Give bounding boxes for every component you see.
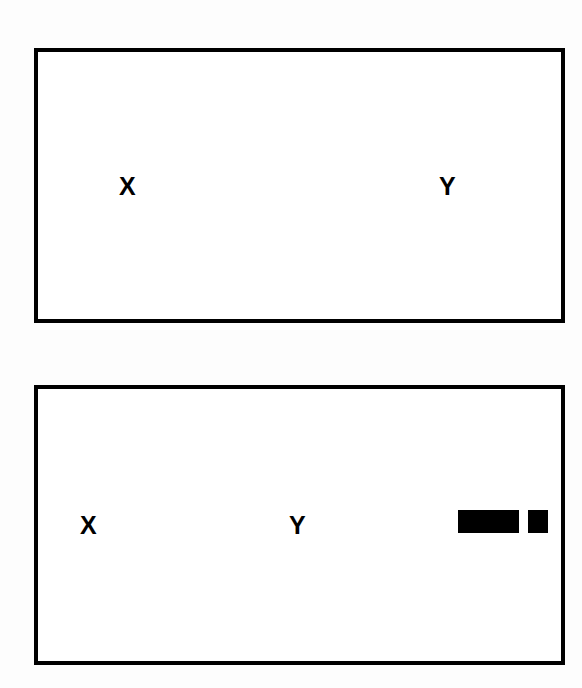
black-bar-long-icon — [458, 510, 519, 533]
label-x: X — [119, 174, 136, 199]
label-x: X — [80, 513, 97, 538]
diagram-panel-top: X Y — [34, 48, 565, 323]
diagram-panel-bottom: X Y — [34, 385, 565, 665]
label-y: Y — [439, 174, 456, 199]
diagram-page: X Y X Y — [0, 0, 582, 688]
black-bar-short-icon — [528, 510, 548, 533]
label-y: Y — [289, 513, 306, 538]
